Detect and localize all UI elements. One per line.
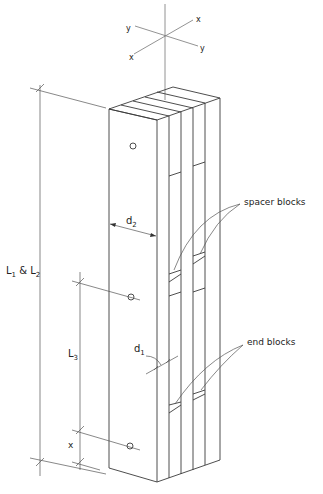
label-width: d2 <box>126 215 137 229</box>
callout-spacer-blocks: spacer blocks <box>174 197 306 270</box>
label-spacer-spacing: L3 <box>68 348 78 362</box>
label-end-blocks: end blocks <box>247 337 296 347</box>
axis-label-x-top: x <box>196 15 201 24</box>
bolt-hole-top <box>130 143 136 149</box>
spacer-block-1 <box>169 270 181 296</box>
column-diagram: x y y x <box>0 0 323 494</box>
x-axis-line <box>134 20 193 54</box>
leader-end-2 <box>201 345 243 390</box>
label-thickness: d1 <box>134 343 145 357</box>
dimension-overall-length: L1 & L2 <box>6 84 106 476</box>
label-spacer-blocks: spacer blocks <box>244 197 306 207</box>
y-axis-line <box>135 26 198 46</box>
label-overall-length: L1 & L2 <box>6 265 40 279</box>
end-block-2 <box>193 390 205 400</box>
column-body <box>109 87 220 482</box>
axis-label-y-right: y <box>200 44 205 53</box>
leader-spacer-1 <box>174 204 240 270</box>
bolt-hole-bottom <box>127 443 133 449</box>
dimension-spacer-spacing: L3 <box>68 272 140 470</box>
dimension-width: d2 <box>110 215 156 237</box>
spacer-block-2 <box>193 252 205 292</box>
axis-label-x-bottom: x <box>129 53 134 62</box>
front-face <box>109 109 157 482</box>
label-end-distance: x <box>68 440 74 450</box>
dimension-end-distance: x <box>68 426 140 470</box>
dimension-thickness: d1 <box>134 343 178 374</box>
axis-label-y-left: y <box>126 24 131 33</box>
coordinate-axes: x y y x <box>126 4 205 100</box>
